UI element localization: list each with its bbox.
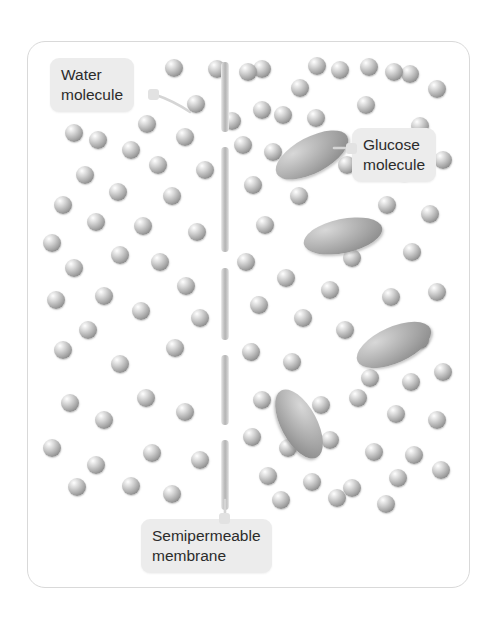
label-glucose-line2: molecule — [363, 155, 425, 175]
label-water-line1: Water — [61, 65, 123, 85]
label-membrane-line1: Semipermeable — [152, 526, 261, 546]
water-label-nub — [148, 89, 159, 100]
osmosis-diagram: Water molecule Glucose molecule Semiperm… — [0, 0, 497, 623]
label-water-molecule: Water molecule — [50, 58, 134, 112]
label-membrane-line2: membrane — [152, 546, 261, 566]
label-glucose-line1: Glucose — [363, 135, 425, 155]
membrane-label-nub — [219, 513, 230, 524]
label-semipermeable-membrane: Semipermeable membrane — [141, 519, 272, 573]
label-water-line2: molecule — [61, 85, 123, 105]
label-glucose-molecule: Glucose molecule — [352, 128, 436, 182]
glucose-label-nub — [346, 143, 357, 154]
